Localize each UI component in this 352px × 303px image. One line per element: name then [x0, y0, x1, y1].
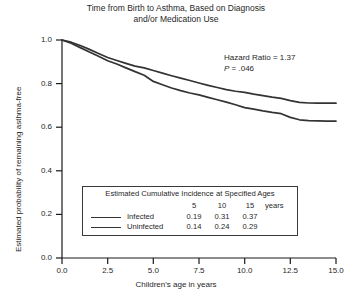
inset-table-row-infected: Infected 0.19 0.31 0.37 — [83, 212, 297, 222]
asthma-survival-chart: Time from Birth to Asthma, Based on Diag… — [0, 0, 352, 303]
legend-swatch-uninfected — [91, 222, 123, 228]
x-axis-ticks — [62, 258, 336, 264]
infected-value-age-15: 0.37 — [237, 212, 263, 221]
p-value-text: P = .046 — [224, 63, 295, 74]
inset-table-row-uninfected: Uninfected 0.14 0.24 0.29 — [83, 222, 297, 232]
y-tick-label-4: 0.8 — [30, 79, 52, 88]
x-axis-label: Children's age in years — [0, 280, 352, 289]
legend-swatch-infected — [91, 212, 123, 218]
y-tick-label-1: 0.2 — [30, 209, 52, 218]
y-tick-label-3: 0.6 — [30, 122, 52, 131]
x-tick-label-4: 10.0 — [230, 266, 260, 275]
uninfected-value-age-5: 0.14 — [181, 222, 207, 231]
inset-table-header-row: 5 10 15 years — [83, 201, 297, 211]
inset-header-age-10: 10 — [209, 201, 235, 210]
x-tick-label-2: 5.0 — [138, 266, 168, 275]
uninfected-value-age-15: 0.29 — [237, 222, 263, 231]
x-tick-label-3: 7.5 — [184, 266, 214, 275]
x-tick-label-5: 12.5 — [275, 266, 305, 275]
inset-legend-table: Estimated Cumulative Incidence at Specif… — [82, 186, 298, 236]
inset-header-unit: years — [265, 201, 295, 210]
inset-header-age-15: 15 — [237, 201, 263, 210]
y-tick-label-5: 1.0 — [30, 35, 52, 44]
statistics-annotation: Hazard Ratio = 1.37 P = .046 — [224, 52, 295, 74]
legend-label-infected: Infected — [127, 212, 181, 221]
y-axis-ticks — [56, 40, 62, 258]
legend-label-uninfected: Uninfected — [127, 222, 181, 231]
infected-value-age-10: 0.31 — [209, 212, 235, 221]
y-axis-label: Estimated probability of remaining asthm… — [14, 87, 23, 252]
infected-value-age-5: 0.19 — [181, 212, 207, 221]
y-tick-label-2: 0.4 — [30, 166, 52, 175]
x-tick-label-0: 0.0 — [47, 266, 77, 275]
plot-area — [0, 0, 352, 303]
uninfected-value-age-10: 0.24 — [209, 222, 235, 231]
p-value-number: = .046 — [229, 64, 254, 73]
inset-header-age-5: 5 — [181, 201, 207, 210]
y-tick-label-0: 0.0 — [30, 253, 52, 262]
x-tick-label-6: 15.0 — [321, 266, 351, 275]
x-tick-label-1: 2.5 — [93, 266, 123, 275]
hazard-ratio-text: Hazard Ratio = 1.37 — [224, 52, 295, 63]
inset-table-title: Estimated Cumulative Incidence at Specif… — [83, 189, 297, 198]
